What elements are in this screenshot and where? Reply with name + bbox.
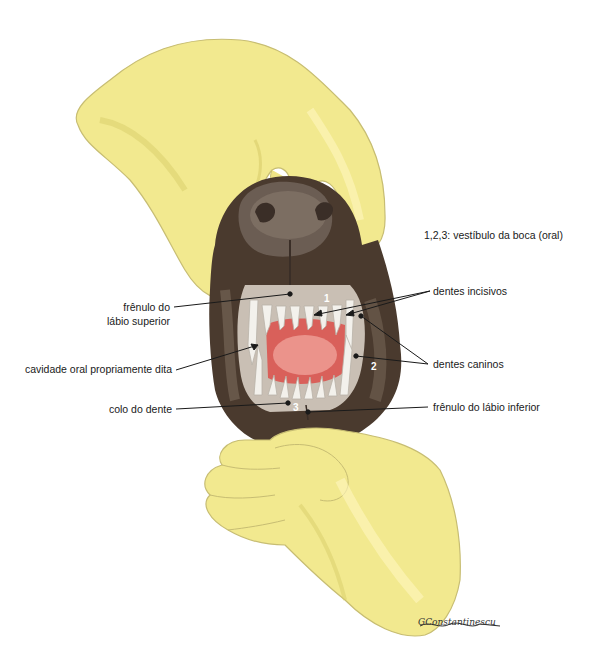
- label-frenulo-labio-inferior: frênulo do lábio inferior: [433, 401, 540, 414]
- label-frenulo-labio-superior-line1: frênulo do: [80, 301, 170, 314]
- region-number-2: 2: [371, 360, 377, 373]
- label-dentes-incisivos: dentes incisivos: [433, 285, 507, 298]
- legend-vestibulo: 1,2,3: vestíbulo da boca (oral): [424, 229, 563, 242]
- open-mouth: [237, 285, 364, 420]
- region-number-1: 1: [324, 292, 330, 305]
- lower-gloved-hand: [205, 428, 460, 636]
- artist-signature: GConstantinescu: [418, 616, 496, 629]
- label-colo-do-dente: colo do dente: [60, 403, 172, 416]
- label-frenulo-labio-superior-line2: lábio superior: [60, 315, 170, 328]
- region-number-3: 3: [293, 401, 299, 414]
- label-cavidade-oral: cavidade oral propriamente dita: [10, 363, 172, 376]
- label-dentes-caninos: dentes caninos: [433, 358, 504, 371]
